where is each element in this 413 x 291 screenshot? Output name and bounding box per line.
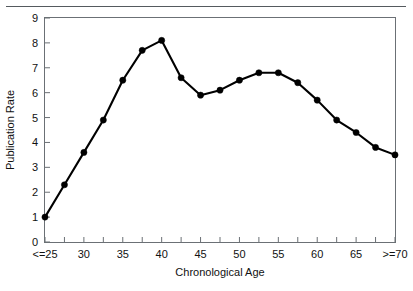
y-tick-label: 4 — [32, 136, 38, 148]
x-tick-label: >=70 — [382, 248, 407, 260]
y-axis-title: Publication Rate — [4, 90, 16, 170]
data-point — [81, 149, 87, 155]
y-tick-label: 2 — [32, 186, 38, 198]
x-tick-label: 50 — [233, 248, 245, 260]
x-tick-label: <=25 — [32, 248, 57, 260]
x-tick-label: 45 — [194, 248, 206, 260]
data-point — [372, 144, 378, 150]
data-point — [120, 77, 126, 83]
data-point — [334, 117, 340, 123]
data-point — [178, 75, 184, 81]
x-tick-label: 40 — [156, 248, 168, 260]
publication-rate-figure: 0123456789 <=253035404550556065>=70 Chro… — [0, 0, 413, 291]
y-tick-label: 0 — [32, 236, 38, 248]
data-point — [295, 80, 301, 86]
y-tick-label: 8 — [32, 37, 38, 49]
y-tick-label: 3 — [32, 161, 38, 173]
data-point — [197, 92, 203, 98]
data-point — [275, 70, 281, 76]
data-point — [236, 77, 242, 83]
x-tick-label: 35 — [117, 248, 129, 260]
y-tick-label: 5 — [32, 112, 38, 124]
x-axis-title: Chronological Age — [175, 266, 264, 278]
data-point — [100, 117, 106, 123]
data-point — [61, 182, 67, 188]
data-point — [353, 129, 359, 135]
x-tick-label: 60 — [311, 248, 323, 260]
data-point — [392, 152, 398, 158]
x-tick-label: 65 — [350, 248, 362, 260]
top-horizontal-rule — [6, 6, 406, 7]
y-tick-label: 9 — [32, 12, 38, 24]
data-point — [314, 97, 320, 103]
data-point — [217, 87, 223, 93]
y-tick-label: 1 — [32, 211, 38, 223]
data-point — [256, 70, 262, 76]
y-tick-label: 7 — [32, 62, 38, 74]
data-point — [42, 214, 48, 220]
x-tick-label: 55 — [272, 248, 284, 260]
x-axis-tick-labels: <=253035404550556065>=70 — [32, 248, 407, 260]
data-point — [139, 47, 145, 53]
line-chart: 0123456789 <=253035404550556065>=70 Chro… — [0, 0, 413, 291]
y-axis-tick-labels: 0123456789 — [32, 12, 38, 248]
y-tick-label: 6 — [32, 87, 38, 99]
data-point — [159, 37, 165, 43]
x-tick-label: 30 — [78, 248, 90, 260]
